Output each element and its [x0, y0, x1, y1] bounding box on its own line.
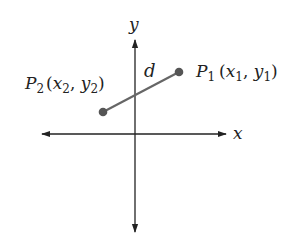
p1-open-paren: (: [219, 61, 226, 81]
point-p1-dot: [175, 68, 184, 77]
p1-close-paren: ): [271, 61, 278, 81]
point-p2-dot: [99, 108, 108, 117]
p1-subscript: 1: [207, 70, 215, 84]
distance-diagram: x y d P1(x1, y1) P2(x2, y2): [0, 0, 301, 243]
p1-sep: ,: [243, 61, 254, 81]
point-p2-label: P2(x2, y2): [24, 73, 105, 96]
p1-x: x: [226, 61, 236, 81]
point-p1-label: P1(x1, y1): [195, 61, 278, 84]
p1-x-sub: 1: [235, 70, 243, 84]
p1-y-sub: 1: [263, 70, 271, 84]
distance-label: d: [144, 60, 156, 81]
p2-x-sub: 2: [62, 82, 70, 96]
p1-y: y: [253, 61, 264, 81]
p1-name: P: [195, 61, 208, 81]
p2-close-paren: ): [98, 73, 105, 93]
x-axis-label: x: [233, 123, 243, 143]
p2-y: y: [80, 73, 91, 93]
p2-y-sub: 2: [90, 82, 98, 96]
p2-subscript: 2: [36, 82, 44, 96]
distance-segment: [103, 72, 179, 112]
p2-open-paren: (: [46, 73, 53, 93]
y-axis-label: y: [128, 14, 139, 34]
p2-sep: ,: [70, 73, 81, 93]
p2-x: x: [53, 73, 63, 93]
p2-name: P: [24, 73, 37, 93]
